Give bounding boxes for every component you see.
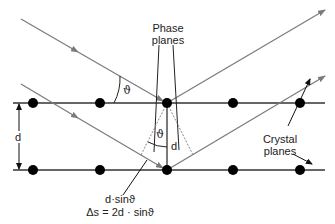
angle-arc-incident bbox=[114, 76, 120, 103]
atom bbox=[95, 165, 105, 175]
phase-planes-label-line1: Phase bbox=[150, 22, 186, 34]
phase-plane-right bbox=[173, 45, 179, 150]
reflected-ray-1 bbox=[167, 10, 325, 103]
atom bbox=[228, 98, 238, 108]
atom bbox=[162, 165, 172, 175]
path-difference-label: Δs = 2d · sinϑ bbox=[60, 206, 180, 218]
atom bbox=[162, 98, 172, 108]
phase-planes-label: Phase planes bbox=[150, 22, 186, 46]
crystal-planes-label-line2: planes bbox=[258, 145, 302, 157]
spacing-label-center: d bbox=[171, 140, 177, 152]
angle-arc-lower bbox=[148, 142, 167, 147]
crystal-planes-label: Crystal planes bbox=[258, 133, 302, 157]
atom bbox=[295, 165, 305, 175]
atom bbox=[95, 98, 105, 108]
phase-planes-label-line2: planes bbox=[150, 34, 186, 46]
angle-label-incident: ϑ bbox=[123, 85, 131, 97]
angle-label-lower: ϑ bbox=[156, 129, 164, 141]
crystal-planes-label-line1: Crystal bbox=[258, 133, 302, 145]
path-segment-pointer bbox=[123, 160, 147, 195]
atom bbox=[228, 165, 238, 175]
atom bbox=[28, 165, 38, 175]
path-segment-label: d·sinϑ bbox=[60, 193, 180, 205]
spacing-label-left: d bbox=[15, 131, 21, 143]
atom bbox=[28, 98, 38, 108]
atom bbox=[295, 98, 305, 108]
incident-ray-1 bbox=[21, 19, 78, 52]
